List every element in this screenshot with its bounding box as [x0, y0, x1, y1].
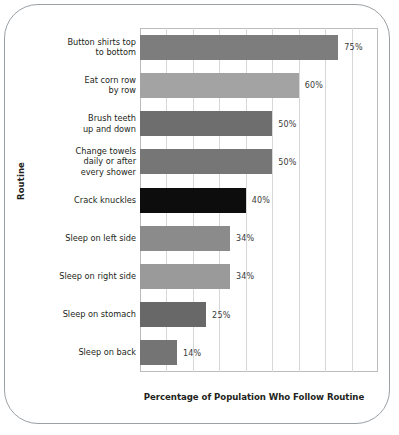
bar-row[interactable]: 14%	[140, 340, 378, 365]
category-label: Button shirts top to bottom	[8, 37, 136, 58]
category-label-column: Button shirts top to bottomEat corn row …	[6, 28, 136, 372]
bar-row[interactable]: 25%	[140, 302, 378, 327]
bar-value-label: 50%	[278, 119, 296, 128]
category-label: Crack knuckles	[8, 195, 136, 206]
category-label: Sleep on right side	[8, 271, 136, 282]
bar[interactable]	[140, 302, 206, 327]
bar-value-label: 60%	[305, 81, 323, 90]
bar-row[interactable]: 50%	[140, 149, 378, 174]
bar-row[interactable]: 34%	[140, 226, 378, 251]
x-axis-title: Percentage of Population Who Follow Rout…	[120, 392, 388, 402]
bar-row[interactable]: 40%	[140, 188, 378, 213]
bar-value-label: 75%	[344, 43, 362, 52]
bar-row[interactable]: 50%	[140, 111, 378, 136]
bar-value-label: 34%	[236, 234, 254, 243]
plot-border-bottom	[140, 371, 378, 372]
bar[interactable]	[140, 73, 299, 98]
plot-area: 75%60%50%50%40%34%34%25%14%	[140, 28, 378, 372]
bar-value-label: 25%	[212, 310, 230, 319]
bar[interactable]	[140, 149, 272, 174]
bar-value-label: 50%	[278, 157, 296, 166]
plot-border-top	[140, 28, 378, 29]
category-label: Eat corn row by row	[8, 75, 136, 96]
bar-value-label: 14%	[183, 348, 201, 357]
category-label: Sleep on back	[8, 347, 136, 358]
category-label: Sleep on left side	[8, 233, 136, 244]
bar[interactable]	[140, 111, 272, 136]
bar[interactable]	[140, 264, 230, 289]
category-label: Sleep on stomach	[8, 309, 136, 320]
bar[interactable]	[140, 340, 177, 365]
bar[interactable]	[140, 188, 246, 213]
category-label: Change towels daily or after every showe…	[8, 146, 136, 178]
bar[interactable]	[140, 35, 338, 60]
bar-value-label: 34%	[236, 272, 254, 281]
bar[interactable]	[140, 226, 230, 251]
bar-row[interactable]: 60%	[140, 73, 378, 98]
category-label: Brush teeth up and down	[8, 113, 136, 134]
bar-row[interactable]: 34%	[140, 264, 378, 289]
bar-row[interactable]: 75%	[140, 35, 378, 60]
bar-value-label: 40%	[252, 196, 270, 205]
bar-chart: Routine Button shirts top to bottomEat c…	[0, 0, 399, 435]
